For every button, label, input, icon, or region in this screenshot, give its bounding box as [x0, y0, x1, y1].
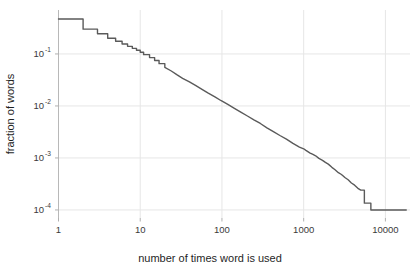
y-tick-label: 10	[33, 100, 44, 111]
y-tick-exponent: -2	[45, 98, 51, 105]
y-tick-exponent: -4	[45, 202, 51, 209]
x-tick-label: 10	[135, 224, 146, 235]
x-gridlines	[59, 10, 386, 218]
y-tick-label: 10	[33, 204, 44, 215]
y-gridlines	[59, 54, 411, 210]
chart-figure: 110100100010000 10-110-210-310-4 number …	[0, 0, 420, 272]
y-axis-title: fraction of words	[4, 73, 16, 154]
x-tick-label: 10000	[372, 224, 398, 235]
x-axis-title: number of times word is used	[138, 252, 282, 264]
x-tick-labels: 110100100010000	[56, 218, 399, 235]
y-tick-label: 10	[33, 48, 44, 59]
x-tick-label: 100	[214, 224, 230, 235]
y-tick-labels: 10-110-210-310-4	[33, 46, 58, 215]
y-tick-exponent: -1	[45, 46, 51, 53]
x-tick-label: 1000	[293, 224, 314, 235]
y-tick-exponent: -3	[45, 150, 51, 157]
y-tick-label: 10	[33, 152, 44, 163]
series-line-fraction-of-words	[59, 19, 407, 210]
word-frequency-log-log-chart: 110100100010000 10-110-210-310-4 number …	[0, 0, 420, 272]
x-tick-label: 1	[56, 224, 61, 235]
data-series-group	[59, 19, 407, 210]
